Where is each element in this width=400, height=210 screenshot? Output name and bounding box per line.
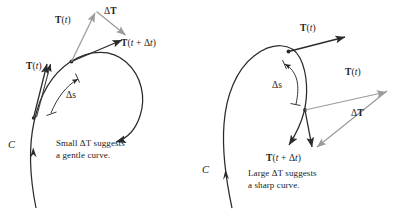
right-arc-length-label: Δs [272, 79, 282, 91]
left-tangent-t-plus-dt-vector [72, 40, 123, 62]
right-tangent-t-label: T(t) [300, 22, 316, 34]
left-curve-label: C [8, 138, 15, 151]
left-arc-length-label: Δs [66, 89, 76, 101]
left-translated-tangent-t-vector [72, 13, 96, 62]
left-delta-t-label: ΔT [104, 5, 117, 17]
left-tangent-t-plus-dt-label: T(t + Δt) [121, 37, 156, 49]
right-arc-tick-start [291, 104, 301, 106]
figure-canvas [0, 0, 400, 210]
right-tangent-t-vector [289, 37, 346, 52]
right-caption-line2: a sharp curve. [248, 180, 300, 192]
left-tangent-t-label: T(t) [26, 60, 42, 72]
right-curve-direction-arrow [223, 170, 229, 181]
left-arc-tick-end [76, 74, 80, 83]
left-translated-tangent-t-label: T(t) [55, 14, 71, 26]
right-arc-length-indicator [285, 64, 298, 104]
right-caption-line1: Large ΔT suggests [248, 168, 317, 180]
right-tangent-t-plus-dt-vector [305, 110, 312, 147]
right-translated-tangent-t-label: T(t) [345, 66, 361, 78]
left-caption-line1: Small ΔT suggests [56, 138, 125, 150]
curvature-figure: T(t) T(t) ΔT T(t + Δt) Δs C Small ΔT sug… [0, 0, 400, 210]
left-caption-line2: a gentle curve. [56, 150, 110, 162]
right-delta-t-label: ΔT [351, 107, 364, 119]
right-curve-label: C [202, 163, 209, 176]
right-tangent-t-plus-dt-label: T(t + Δt) [266, 152, 301, 164]
